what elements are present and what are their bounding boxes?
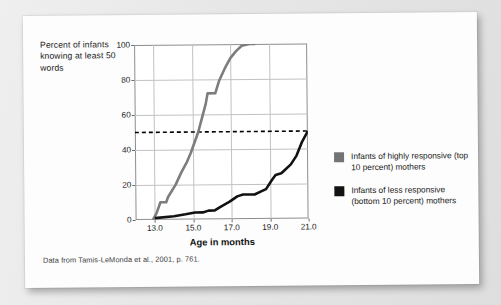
legend-label-low-responsive: Infants of less responsive (bottom 10 pe… [351,184,470,207]
threshold-line-50-percent [135,131,308,133]
x-tick-label: 13.0 [147,224,163,233]
scanned-page-background: Percent of infants knowing at least 50 w… [0,0,501,305]
x-tick-label: 17.0 [224,223,240,232]
x-tick-mark [193,219,194,222]
x-tick-label: 19.0 [262,223,278,232]
figure-card: Percent of infants knowing at least 50 w… [23,12,479,288]
legend-swatch-gray [334,152,344,162]
y-tick-label: 100 [116,41,130,50]
x-tick-mark [309,218,310,221]
y-tick-label: 40 [122,146,131,155]
legend-label-high-responsive: Infants of highly responsive (top 10 per… [351,150,470,173]
x-tick-label: 15.0 [185,223,201,232]
source-caption: Data from Tamis-LeMonda et al., 2001, p.… [43,254,200,264]
y-tick-label: 60 [122,111,131,120]
legend-swatch-black [334,186,344,196]
chart-figure: Percent of infants knowing at least 50 w… [23,12,479,288]
x-tick-mark [270,219,271,222]
y-tick-label: 80 [121,76,130,85]
legend-item-high-responsive: Infants of highly responsive (top 10 per… [334,150,470,173]
x-tick-mark [232,219,233,222]
chart-legend: Infants of highly responsive (top 10 per… [334,150,471,219]
x-tick-label: 21.0 [301,222,317,231]
y-tick-label: 20 [122,181,131,190]
data-series-layer [134,44,309,221]
y-tick-label: 0 [127,216,132,225]
y-tick-mark [133,220,136,221]
x-axis-title: Age in months [136,235,309,248]
series-line-low-responsive [154,131,309,218]
x-tick-mark [155,220,156,223]
legend-item-low-responsive: Infants of less responsive (bottom 10 pe… [334,184,470,207]
plot-area: 02040608010013.015.017.019.021.0 [134,44,309,221]
